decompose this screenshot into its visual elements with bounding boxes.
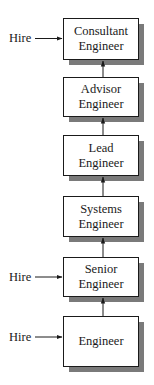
role-label-line2: Engineer xyxy=(78,39,123,54)
role-label-line2: Engineer xyxy=(78,156,123,171)
role-label-line2: Engineer xyxy=(78,97,123,112)
role-label-line1: Engineer xyxy=(78,334,123,349)
role-label-line1: Systems xyxy=(80,202,122,217)
role-box-engineer: Engineer xyxy=(63,316,139,367)
hire-label-engineer: Hire xyxy=(9,330,31,344)
role-label-line1: Advisor xyxy=(81,82,121,97)
role-box-systems-engineer: Systems Engineer xyxy=(63,196,139,237)
role-box-advisor-engineer: Advisor Engineer xyxy=(63,77,139,117)
role-label-line2: Engineer xyxy=(78,277,123,292)
role-label-line1: Senior xyxy=(85,262,118,277)
role-box-lead-engineer: Lead Engineer xyxy=(63,135,139,176)
role-box-senior-engineer: Senior Engineer xyxy=(63,257,139,297)
hire-label-senior: Hire xyxy=(9,270,31,284)
career-ladder-diagram: Consultant Engineer Advisor Engineer Lea… xyxy=(0,0,154,385)
role-label-line2: Engineer xyxy=(78,217,123,232)
role-box-consultant-engineer: Consultant Engineer xyxy=(63,18,139,60)
role-label-line1: Lead xyxy=(89,141,114,156)
role-label-line1: Consultant xyxy=(74,24,128,39)
hire-label-consultant: Hire xyxy=(9,31,31,45)
